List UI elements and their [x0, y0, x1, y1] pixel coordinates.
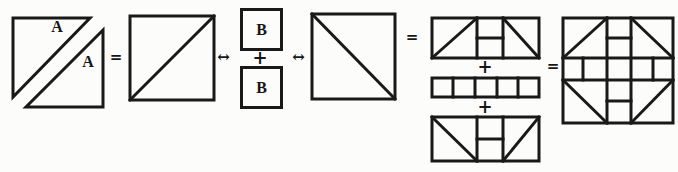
b-square-top: B	[240, 8, 283, 51]
right-diagonal-up	[503, 117, 539, 161]
double-arrow-icon-1: ↔	[217, 50, 229, 65]
b-square-bottom-label: B	[256, 79, 267, 97]
equals-sign-3: =	[547, 59, 560, 74]
triangle-a-upper-label: A	[51, 19, 63, 35]
top-right-diagonal	[631, 18, 673, 58]
plus-sign-strip-1: +	[477, 58, 492, 76]
bottom-right-diagonal	[631, 80, 673, 123]
block-outline	[563, 18, 673, 123]
plus-sign-strip-2: +	[477, 98, 492, 116]
strip-unit-top	[430, 16, 542, 61]
left-diagonal-up	[432, 18, 477, 58]
equals-sign-2: =	[406, 30, 419, 45]
final-quilt-block	[561, 16, 677, 127]
b-square-top-label: B	[256, 21, 267, 39]
diagonal-down-line	[312, 14, 395, 99]
plus-sign-b: +	[252, 49, 267, 67]
triangle-a-lower-label: A	[82, 54, 94, 70]
square-diagonal-up	[128, 14, 218, 104]
top-left-diagonal	[563, 18, 607, 58]
double-arrow-icon-2: ↔	[292, 50, 304, 65]
right-diagonal-down	[503, 18, 539, 58]
strip-outline	[432, 78, 539, 97]
strip-unit-bottom	[430, 115, 542, 164]
diagram-canvas: A A = ↔ B + B ↔ = + +	[0, 0, 678, 172]
diagonal-up-line	[130, 16, 214, 100]
bottom-left-diagonal	[563, 80, 607, 123]
square-diagonal-down	[310, 12, 400, 104]
equals-sign-1: =	[110, 50, 123, 65]
left-diagonal-down	[432, 117, 477, 161]
b-square-bottom: B	[240, 66, 283, 109]
